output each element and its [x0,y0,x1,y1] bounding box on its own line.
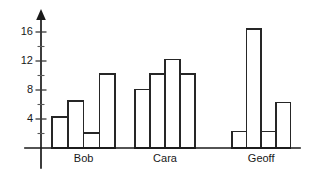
bar [52,117,68,148]
bar [135,89,150,148]
x-axis-group-labels: BobCaraGeoff [74,152,276,164]
y-axis-tick-label: 12 [21,54,33,66]
bar [261,131,276,148]
y-axis-tick-label: 8 [27,83,33,95]
bars-layer [52,29,290,148]
bar [247,29,262,148]
bar [99,74,115,148]
x-axis-group-label: Bob [74,152,94,164]
y-axis-tick-label: 4 [27,112,33,124]
bar [276,102,291,148]
y-axis-tick-labels: 481216 [21,25,33,124]
bar [150,74,165,148]
bar [165,60,180,148]
y-axis-tick-label: 16 [21,25,33,37]
bar [232,131,247,148]
chart-canvas: 481216 BobCaraGeoff [0,0,320,177]
bar [180,74,195,148]
y-axis-arrow-icon [36,9,46,20]
x-axis-group-label: Cara [153,152,178,164]
bar [84,133,100,148]
bar [68,101,84,148]
bar-chart: 481216 BobCaraGeoff [0,0,320,177]
x-axis-group-label: Geoff [248,152,276,164]
